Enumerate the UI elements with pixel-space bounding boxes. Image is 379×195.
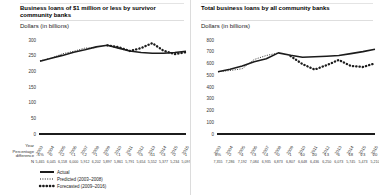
y-tick-label: 700 — [206, 49, 214, 54]
pct-diff-value: 2 — [229, 152, 232, 157]
left-chart-canvas: 0501001502002503002003200420052006200720… — [0, 30, 190, 167]
pct-diff-value: 10 — [300, 152, 305, 157]
pct-diff-value: 0 — [50, 152, 53, 157]
left-unit-label: Dollars (in billions) — [20, 23, 190, 30]
pct-diff-value: 0 — [277, 152, 280, 157]
pct-diff-value: 0 — [129, 152, 132, 157]
n-value: 6,436 — [310, 160, 319, 164]
pct-diff-value: 13 — [324, 152, 329, 157]
n-value: 5,861 — [114, 160, 123, 164]
y-tick-label: 300 — [206, 96, 214, 101]
n-value: 5,473 — [358, 160, 367, 164]
n-value: 7,286 — [226, 160, 235, 164]
n-value: 5,912 — [80, 160, 89, 164]
n-value: 6,935 — [262, 160, 271, 164]
legend-label-actual: Actual — [57, 170, 70, 175]
y-tick-label: 50 — [31, 116, 37, 121]
pct-diff-value: -4 — [264, 152, 268, 157]
n-value: 6,873 — [274, 160, 283, 164]
pct-diff-value: 1 — [289, 152, 292, 157]
n-value: 6,073 — [334, 160, 343, 164]
year-row-label: Year — [25, 143, 34, 148]
y-tick-label: 100 — [206, 120, 214, 125]
left-chart-title: Business loans of $1 million or less by … — [20, 5, 184, 19]
y-tick-label: 400 — [206, 85, 214, 90]
right-chart-panel: Total business loans by all community ba… — [190, 0, 379, 195]
y-tick-label: 150 — [28, 85, 36, 90]
dual-line-chart-figure: Business loans of $1 million or less by … — [0, 0, 379, 195]
y-tick-label: 100 — [28, 100, 36, 105]
n-value: 6,000 — [69, 160, 78, 164]
legend-label-forecasted: Forecasted (2009–2016) — [57, 184, 107, 189]
pct-diff-value: 20 — [312, 152, 317, 157]
left-chart-panel: Business loans of $1 million or less by … — [0, 0, 190, 195]
n-value: 5,791 — [125, 160, 134, 164]
pct-diff-value: 6 — [338, 152, 341, 157]
n-value: 5,234 — [170, 160, 179, 164]
n-value: 7,192 — [238, 160, 247, 164]
y-tick-label: 800 — [206, 38, 214, 43]
n-value: 6,158 — [58, 160, 67, 164]
pct-diff-value: -1 — [72, 152, 76, 157]
legend: Actual Predicted (2003–2008) Forecasted … — [0, 167, 190, 195]
pct-diff-value: -5 — [139, 152, 143, 157]
pct-diff-value: -2 — [61, 152, 65, 157]
pct-diff-value: 18 — [349, 152, 354, 157]
actual-line — [40, 45, 186, 61]
pct-diff-value: -11 — [149, 152, 155, 157]
predicted-line — [218, 53, 278, 72]
n-value: 5,465 — [36, 160, 45, 164]
y-tick-label: 600 — [206, 61, 214, 66]
n-value: 5,654 — [137, 160, 146, 164]
pct-diff-value: 1 — [95, 152, 98, 157]
pct-diff-value: 1 — [185, 152, 188, 157]
y-tick-label: 0 — [33, 132, 36, 137]
pct-diff-value: -2 — [83, 152, 87, 157]
n-value: 7,084 — [250, 160, 259, 164]
y-tick-label: 200 — [206, 108, 214, 113]
forecasted-line — [291, 56, 376, 70]
pct-row-label-line2: difference — [16, 153, 35, 158]
right-title-block: Total business loans by all community ba… — [201, 3, 373, 21]
pct-diff-value: 4 — [241, 152, 244, 157]
right-chart-title: Total business loans by all community ba… — [201, 5, 373, 12]
legend-label-predicted: Predicted (2003–2008) — [57, 177, 103, 182]
n-value: 5,210 — [371, 160, 379, 164]
n-value: 5,745 — [346, 160, 355, 164]
right-unit-label: Dollars (in billions) — [201, 23, 379, 30]
pct-diff-value: 2 — [174, 152, 177, 157]
pct-diff-value: -1% — [36, 152, 44, 157]
n-value: 5,377 — [159, 160, 168, 164]
pct-diff-value: 23 — [361, 152, 366, 157]
n-value: 6,648 — [298, 160, 307, 164]
y-tick-label: 200 — [28, 69, 36, 74]
y-tick-label: 500 — [206, 73, 214, 78]
y-tick-label: 250 — [28, 53, 36, 58]
y-tick-label: 0 — [211, 132, 214, 137]
n-value: 5,552 — [148, 160, 157, 164]
n-value: 5,897 — [103, 160, 112, 164]
n-value: 7,355 — [214, 160, 223, 164]
y-tick-label: 300 — [28, 38, 36, 43]
pct-diff-value: -1 — [117, 152, 121, 157]
n-row-label: N — [31, 159, 34, 164]
pct-diff-value: -3 — [162, 152, 166, 157]
pct-diff-value: 0 — [106, 152, 109, 157]
n-value: 6,250 — [322, 160, 331, 164]
n-value: 5,097 — [182, 160, 191, 164]
right-chart-canvas: 0100200300400500600700800200320042005200… — [191, 30, 379, 167]
n-value: 6,202 — [92, 160, 101, 164]
pct-diff-value: 20 — [373, 152, 378, 157]
pct-diff-value: -3 — [252, 152, 256, 157]
n-value: 6,807 — [286, 160, 295, 164]
n-value: 6,045 — [47, 160, 56, 164]
pct-diff-value: 0% — [215, 152, 221, 157]
left-title-block: Business loans of $1 million or less by … — [20, 3, 184, 21]
